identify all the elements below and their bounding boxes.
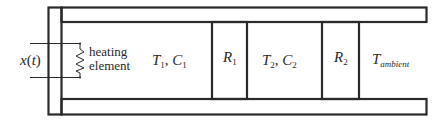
resistor2-symbol: R — [334, 49, 343, 65]
resistor2-sub: 2 — [343, 57, 348, 67]
node1-cap-sub: 1 — [182, 60, 187, 70]
resistor1-symbol: R — [223, 49, 232, 65]
resistor2-label: R2 — [334, 50, 348, 67]
input-close-paren: ) — [36, 52, 41, 68]
heater-label-line1: heating — [89, 45, 130, 59]
input-label: x(t) — [20, 53, 41, 68]
input-symbol: x — [20, 52, 27, 68]
node2-cap-sub: 2 — [292, 60, 297, 70]
resistor1-label: R1 — [223, 50, 237, 67]
ambient-label: Tambient — [372, 52, 409, 69]
ambient-sub: ambient — [380, 59, 409, 69]
node2-label: T2, C2 — [262, 53, 297, 70]
resistor1-sub: 1 — [232, 57, 237, 67]
top-insulation-bar — [62, 8, 427, 23]
left-end-wall — [49, 8, 62, 115]
bottom-insulation-bar — [62, 99, 427, 115]
resistor-zigzag-icon — [76, 44, 84, 78]
heater-label: heating element — [89, 45, 130, 73]
node2-cap-symbol: C — [282, 52, 292, 68]
node1-label: T1, C1 — [152, 53, 187, 70]
heater-label-line2: element — [89, 59, 130, 73]
node1-cap-symbol: C — [172, 52, 182, 68]
